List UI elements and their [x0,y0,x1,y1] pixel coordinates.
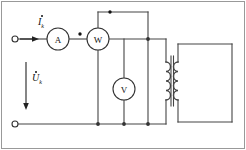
secondary-winding [174,62,179,100]
ammeter-label: A [55,35,62,45]
wattmeter-label: W [94,35,103,45]
input-terminal-top[interactable] [12,36,18,42]
current-accent-dot [41,15,43,17]
node-bottom-mid [122,122,126,126]
terminal-group [12,36,18,127]
primary-winding [166,62,171,100]
voltage-direction-arrow-head [23,103,29,110]
current-label: Ik [38,16,44,29]
node-bottom-right [146,122,150,126]
voltmeter-label: V [121,85,128,95]
input-terminal-bottom[interactable] [12,121,18,127]
voltage-label: Uk [32,72,42,85]
node-bottom-wattmeter [96,122,100,126]
polarity-dot-voltage-coil [108,10,111,13]
current-direction-arrow-head [32,36,39,42]
polarity-dot-current-coil [78,32,81,35]
current-subscript: k [41,23,44,29]
circuit-diagram: A W V [0,0,246,150]
voltage-subscript: k [39,79,42,85]
node-top-right [146,37,150,41]
voltage-accent-dot [35,71,37,73]
